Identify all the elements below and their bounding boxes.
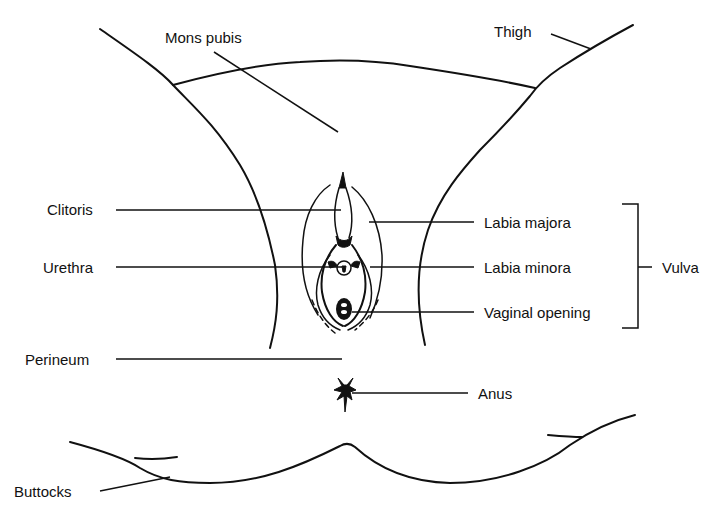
- vulva-illustration: [302, 172, 382, 333]
- abdomen-contour: [173, 61, 535, 88]
- label-vulva: Vulva: [662, 259, 700, 276]
- vulva-bracket: [622, 204, 652, 328]
- label-thigh: Thigh: [494, 23, 532, 40]
- label-urethra: Urethra: [43, 259, 94, 276]
- thigh-leader: [551, 34, 591, 49]
- label-anus: Anus: [478, 385, 512, 402]
- label-labia-majora: Labia majora: [484, 214, 571, 231]
- left-thigh-outline: [100, 29, 277, 348]
- label-perineum: Perineum: [25, 351, 89, 368]
- label-labia-minora: Labia minora: [484, 259, 571, 276]
- right-buttock-fold: [548, 435, 582, 437]
- label-mons-pubis: Mons pubis: [165, 29, 242, 46]
- female-external-anatomy-diagram: Mons pubis Thigh Clitoris Urethra Perine…: [0, 0, 723, 516]
- label-buttocks: Buttocks: [14, 483, 72, 500]
- anus-illustration: [334, 378, 356, 412]
- buttocks-leader: [100, 477, 170, 491]
- left-buttock-fold: [135, 457, 177, 459]
- buttocks-outline: [70, 415, 635, 483]
- label-clitoris: Clitoris: [47, 201, 93, 218]
- label-vaginal-opening: Vaginal opening: [484, 304, 590, 321]
